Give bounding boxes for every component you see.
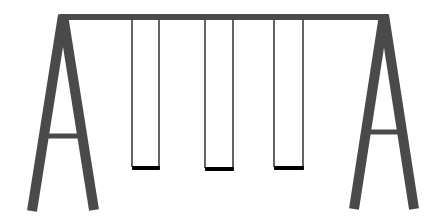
swing-seat [274,166,304,170]
swing-set-illustration [0,0,442,223]
swing-seat [132,166,160,170]
swing-seat [205,167,234,171]
